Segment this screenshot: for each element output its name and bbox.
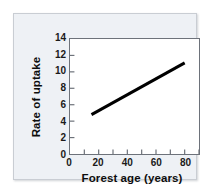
y-axis-tick-labels: 02468101214 (42, 38, 66, 155)
figure-panel: 02468101214 020406080 Rate of uptake For… (13, 13, 197, 180)
y-tick-label: 2 (44, 133, 66, 143)
axis-tick-marks (70, 55, 199, 154)
y-tick-label: 6 (44, 100, 66, 110)
y-tick-label: 14 (44, 33, 66, 43)
y-tick-label: 10 (44, 66, 66, 76)
data-series-group (92, 63, 185, 115)
plot-area (69, 38, 200, 155)
x-axis-tick-labels: 020406080 (69, 157, 200, 171)
x-tick-label: 40 (114, 157, 140, 169)
y-tick-label: 4 (44, 117, 66, 127)
x-tick-label: 80 (172, 157, 198, 169)
y-axis-title: Rate of uptake (30, 56, 42, 137)
x-tick-label: 20 (85, 157, 111, 169)
chart-svg (70, 39, 199, 154)
plot-inner (70, 39, 199, 154)
data-line (92, 63, 185, 115)
x-tick-label: 60 (143, 157, 169, 169)
y-tick-label: 8 (44, 83, 66, 93)
x-tick-label: 0 (56, 157, 82, 169)
y-tick-label: 12 (44, 50, 66, 60)
x-axis-title: Forest age (years) (54, 172, 210, 184)
y-axis-title-container: Rate of uptake (28, 38, 44, 155)
